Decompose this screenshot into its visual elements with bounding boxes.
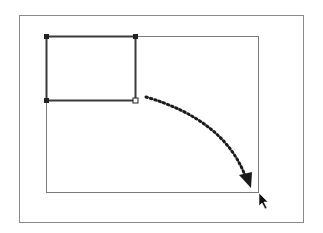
resize-handles <box>44 34 138 103</box>
diagram-canvas <box>0 0 323 233</box>
inner-frame <box>47 37 259 193</box>
drag-path <box>146 97 246 178</box>
handle-top-left[interactable] <box>44 34 49 39</box>
handle-bottom-right[interactable] <box>133 98 138 103</box>
drag-arrowhead-icon <box>239 172 252 188</box>
handle-top-right[interactable] <box>133 34 138 39</box>
selected-rectangle[interactable] <box>47 37 136 101</box>
handle-bottom-left[interactable] <box>44 98 49 103</box>
mouse-pointer-icon <box>259 193 268 209</box>
outer-frame <box>20 16 304 223</box>
